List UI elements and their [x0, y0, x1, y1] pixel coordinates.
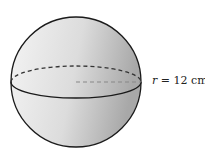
radius-label: r = 12 cm [152, 74, 205, 87]
radius-value: = 12 cm [157, 74, 205, 87]
